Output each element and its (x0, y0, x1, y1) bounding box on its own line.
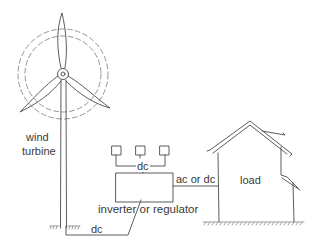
turbine-label-line1: wind (26, 131, 49, 143)
diagram-canvas: wind turbine dc ac or dc load inverter o… (0, 0, 323, 247)
inverter-label: inverter or regulator (98, 203, 198, 215)
panel-bus-label: dc (136, 160, 150, 172)
turbine-tower (61, 80, 67, 228)
turbine-link-label: dc (91, 223, 103, 235)
house (203, 121, 304, 225)
house-ground (203, 222, 304, 225)
turbine-hub (58, 69, 69, 80)
house-load-label: load (240, 174, 261, 186)
wind-turbine (18, 13, 110, 229)
turbine-blades (20, 13, 110, 112)
turbine-ground (50, 226, 80, 229)
house-link-label: ac or dc (176, 173, 215, 185)
solar-panel-1 (112, 146, 121, 155)
turbine-label-line2: turbine (22, 145, 56, 157)
solar-panel-3 (160, 146, 169, 155)
solar-panel-2 (136, 146, 145, 155)
